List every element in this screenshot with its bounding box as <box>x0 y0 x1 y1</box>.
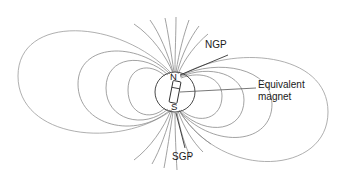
field-loop-right-2 <box>180 71 244 127</box>
radial-line-n3 <box>165 18 174 72</box>
magnetic-field-diagram: N S NGP SGP Equivalent magnet <box>0 0 341 188</box>
field-loop-left-1 <box>128 68 165 115</box>
radial-line-s6 <box>178 111 203 152</box>
ngp-label: NGP <box>205 39 227 50</box>
radial-line-n4 <box>175 17 176 72</box>
pole-label-south: S <box>171 101 177 112</box>
left-field-loops <box>18 31 172 133</box>
equivalent-magnet-leader-line <box>180 88 256 92</box>
equivalent-magnet-label-line1: Equivalent <box>258 79 305 90</box>
field-loop-left-3 <box>78 51 170 126</box>
ngp-leader-line <box>180 55 228 75</box>
diagram-root: N S NGP SGP Equivalent magnet <box>0 0 341 188</box>
north-radial-lines <box>134 17 208 74</box>
field-loop-left-4 <box>18 31 172 133</box>
pole-label-north: N <box>170 71 177 82</box>
radial-line-s7 <box>179 110 211 144</box>
field-loop-right-4 <box>180 58 328 162</box>
field-loop-right-1 <box>181 75 222 119</box>
equivalent-magnet-label-line2: magnet <box>258 91 292 102</box>
sgp-label: SGP <box>172 151 193 162</box>
field-loop-right-3 <box>180 67 272 137</box>
right-field-loops <box>180 58 328 162</box>
